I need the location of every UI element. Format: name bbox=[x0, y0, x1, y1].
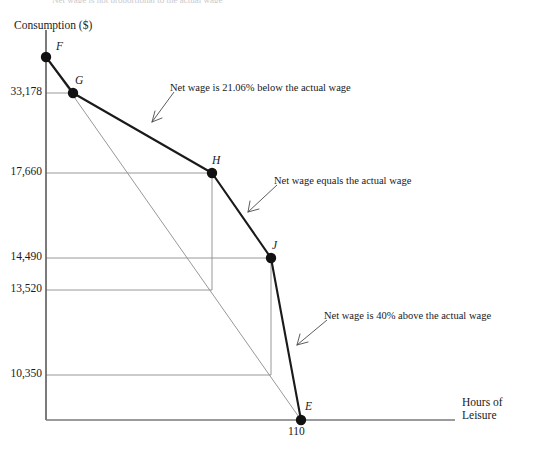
point-label-e: E bbox=[305, 400, 312, 412]
y-tick-label-17660: 17,660 bbox=[0, 165, 42, 177]
point-label-g: G bbox=[75, 74, 83, 86]
y-tick-label-14490: 14,490 bbox=[0, 250, 42, 262]
x-axis-title-line-2: Leisure bbox=[462, 409, 496, 421]
x-tick-label-110: 110 bbox=[288, 425, 305, 437]
annotation-arrow-2 bbox=[248, 185, 277, 212]
y-tick-label-13520: 13,520 bbox=[0, 282, 42, 294]
data-point-h[interactable] bbox=[207, 168, 217, 178]
point-label-f: F bbox=[56, 40, 63, 52]
data-point-f[interactable] bbox=[41, 52, 51, 62]
actual-wage-budget-line bbox=[46, 57, 301, 420]
chart-canvas bbox=[0, 0, 535, 451]
annotation-below-wage: Net wage is 21.06% below the actual wage bbox=[170, 82, 351, 93]
guide-lines bbox=[46, 93, 271, 375]
y-tick-label-33178: 33,178 bbox=[0, 85, 42, 97]
annotation-above-wage: Net wage is 40% above the actual wage bbox=[324, 310, 491, 321]
y-tick-label-10350: 10,350 bbox=[0, 367, 42, 379]
y-axis-title: Consumption ($) bbox=[14, 19, 92, 31]
data-point-j[interactable] bbox=[266, 253, 276, 263]
annotation-equal-wage: Net wage equals the actual wage bbox=[274, 175, 411, 186]
annotation-arrow-1 bbox=[152, 92, 174, 122]
annotation-arrows bbox=[152, 92, 327, 345]
point-label-j: J bbox=[272, 239, 277, 251]
annotation-arrow-3 bbox=[297, 320, 327, 345]
x-axis-title-line-1: Hours of bbox=[462, 396, 503, 408]
data-point-e[interactable] bbox=[296, 415, 306, 425]
data-point-g[interactable] bbox=[68, 88, 78, 98]
x-axis-title: Hours of Leisure bbox=[462, 396, 522, 421]
point-label-h: H bbox=[212, 154, 220, 166]
